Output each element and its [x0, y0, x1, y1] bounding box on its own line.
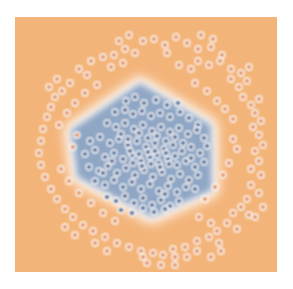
scatter-point	[48, 104, 54, 110]
scatter-point	[192, 80, 198, 86]
decision-boundary-svg	[15, 17, 277, 272]
scatter-point	[56, 122, 62, 128]
scatter-point	[97, 134, 103, 140]
scatter-point	[42, 174, 48, 180]
scatter-point	[70, 214, 76, 220]
scatter-point	[166, 161, 172, 167]
scatter-point	[92, 240, 98, 246]
scatter-point	[90, 228, 96, 234]
scatter-point	[114, 240, 120, 246]
scatter-point	[204, 143, 210, 149]
scatter-point	[238, 70, 244, 76]
scatter-point	[174, 189, 180, 195]
scatter-point	[214, 98, 220, 104]
scatter-point	[120, 156, 126, 162]
scatter-point	[195, 46, 201, 52]
scatter-point	[208, 220, 214, 226]
scatter-point	[148, 113, 154, 119]
scatter-point	[185, 131, 191, 137]
scatter-point	[72, 100, 78, 106]
scatter-point	[252, 214, 258, 220]
scatter-point	[76, 190, 82, 196]
scatter-point	[122, 107, 128, 113]
scatter-point	[132, 50, 138, 56]
scatter-point	[111, 150, 117, 156]
scatter-point	[141, 100, 147, 106]
scatter-point	[74, 132, 80, 138]
scatter-point	[122, 46, 128, 52]
scatter-point	[230, 136, 236, 142]
scatter-point	[111, 177, 117, 183]
scatter-point	[164, 102, 170, 108]
scatter-point	[186, 115, 192, 121]
scatter-point	[157, 164, 163, 170]
scatter-point	[58, 166, 64, 172]
scatter-point	[177, 109, 183, 115]
scatter-point	[176, 62, 182, 68]
scatter-point	[67, 80, 73, 86]
scatter-point	[54, 76, 60, 82]
scatter-point	[126, 244, 132, 250]
scatter-point	[131, 200, 137, 206]
scatter-point	[170, 142, 176, 148]
scatter-point	[164, 50, 170, 56]
scatter-point	[100, 210, 106, 216]
scatter-point	[149, 202, 155, 208]
scatter-point	[102, 182, 108, 188]
scatter-point	[140, 122, 146, 128]
scatter-point	[113, 124, 119, 130]
scatter-point	[122, 120, 128, 126]
scatter-point	[104, 120, 110, 126]
scatter-point	[88, 58, 94, 64]
scatter-point	[36, 150, 42, 156]
scatter-point	[66, 178, 72, 184]
scatter-point	[158, 124, 164, 130]
scatter-point	[184, 40, 190, 46]
scatter-point	[206, 62, 212, 68]
scatter-point	[256, 132, 262, 138]
scatter-point	[129, 210, 135, 216]
scatter-point	[160, 252, 166, 258]
scatter-point	[248, 166, 254, 172]
scatter-point	[150, 174, 156, 180]
scatter-point	[44, 114, 50, 120]
scatter-point	[130, 160, 136, 166]
scatter-point	[138, 186, 144, 192]
scatter-point	[108, 64, 114, 70]
scatter-point	[250, 124, 256, 130]
scatter-point	[258, 172, 264, 178]
scatter-point	[246, 64, 252, 70]
scatter-point	[113, 198, 119, 204]
scatter-point	[116, 38, 122, 44]
scatter-point	[194, 127, 200, 133]
scatter-point	[139, 108, 145, 114]
scatter-point	[127, 148, 133, 154]
scatter-point	[140, 38, 146, 44]
scatter-point	[111, 52, 117, 58]
scatter-point	[92, 147, 98, 153]
scatter-point	[208, 44, 214, 50]
scatter-point	[201, 159, 207, 165]
scatter-point	[180, 140, 186, 146]
scatter-point	[170, 246, 176, 252]
scatter-point	[198, 32, 204, 38]
scatter-point	[252, 148, 258, 154]
scatter-point	[148, 161, 154, 167]
scatter-point	[132, 94, 138, 100]
scatter-point	[188, 155, 194, 161]
scatter-point	[172, 134, 178, 140]
scatter-point	[256, 158, 262, 164]
scatter-point	[219, 52, 225, 58]
scatter-point	[100, 54, 106, 60]
scatter-point	[120, 184, 126, 190]
scatter-point	[234, 226, 240, 232]
scatter-point	[217, 58, 223, 64]
scatter-point	[153, 97, 159, 103]
scatter-point	[252, 110, 258, 116]
scatter-point	[204, 88, 210, 94]
scatter-point	[208, 254, 214, 260]
scatter-point	[258, 118, 264, 124]
scatter-point	[186, 177, 192, 183]
scatter-point	[188, 144, 194, 150]
scatter-point	[134, 138, 140, 144]
